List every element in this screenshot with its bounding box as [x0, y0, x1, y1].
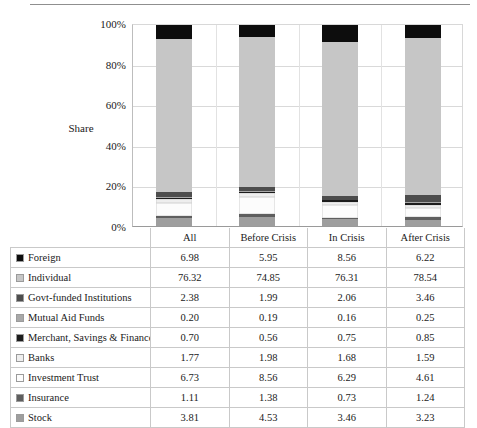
table-cell-value: 4.53: [229, 408, 308, 428]
table-cell-value: 76.31: [308, 268, 387, 288]
segment-foreign: [322, 25, 358, 42]
table-cell-value: 0.73: [308, 388, 387, 408]
table-cell-value: 74.85: [229, 268, 308, 288]
table-row: Insurance1.111.380.731.24: [11, 388, 465, 408]
legend-label: Insurance: [28, 392, 69, 403]
data-table: AllBefore CrisisIn CrisisAfter Crisis Fo…: [10, 228, 465, 428]
table-cell-value: 2.38: [151, 288, 230, 308]
legend-swatch-icon: [16, 374, 24, 382]
legend-label: Govt-funded Institutions: [28, 292, 132, 303]
table-row: Banks1.771.981.681.59: [11, 348, 465, 368]
segment-foreign: [405, 25, 441, 38]
y-axis-tick-100: 100%: [84, 19, 126, 30]
y-axis-title: Share: [52, 122, 110, 134]
table-row: Merchant, Savings & Finance0.700.560.750…: [11, 328, 465, 348]
table-cell-value: 6.73: [151, 368, 230, 388]
legend-label: Individual: [28, 272, 71, 283]
segment-foreign: [239, 25, 275, 37]
legend-swatch-icon: [16, 354, 24, 362]
table-cell-value: 0.20: [151, 308, 230, 328]
segment-investment-trust: [322, 205, 358, 218]
top-divider: [30, 4, 470, 5]
segment-stock: [405, 220, 441, 227]
legend-swatch-icon: [16, 314, 24, 322]
table-row: Govt-funded Institutions2.381.992.063.46: [11, 288, 465, 308]
table-cell-value: 6.98: [151, 248, 230, 268]
table-header-corner: [11, 228, 151, 248]
legend-swatch-icon: [16, 274, 24, 282]
table-cell-value: 0.16: [308, 308, 387, 328]
table-cell-value: 1.59: [386, 348, 465, 368]
table-row: Individual76.3274.8576.3178.54: [11, 268, 465, 288]
table-column-header-in-crisis: In Crisis: [308, 228, 387, 248]
table-cell-value: 5.95: [229, 248, 308, 268]
legend-entry: Foreign: [11, 248, 151, 268]
table-cell-value: 1.24: [386, 388, 465, 408]
bar-before-crisis: [239, 25, 275, 226]
legend-label: Investment Trust: [28, 372, 99, 383]
bar-in-crisis: [322, 25, 358, 226]
legend-entry: Insurance: [11, 388, 151, 408]
table-cell-value: 6.29: [308, 368, 387, 388]
table-cell-value: 0.85: [386, 328, 465, 348]
table-row: Mutual Aid Funds0.200.190.160.25: [11, 308, 465, 328]
table-column-header-all: All: [151, 228, 230, 248]
table-cell-value: 0.75: [308, 328, 387, 348]
legend-swatch-icon: [16, 254, 24, 262]
table-header: AllBefore CrisisIn CrisisAfter Crisis: [11, 228, 465, 248]
table-cell-value: 2.06: [308, 288, 387, 308]
table-cell-value: 6.22: [386, 248, 465, 268]
legend-entry: Merchant, Savings & Finance: [11, 328, 151, 348]
segment-individual: [239, 37, 275, 187]
category-divider: [216, 25, 217, 226]
segment-investment-trust: [239, 197, 275, 214]
table-cell-value: 8.56: [229, 368, 308, 388]
table-cell-value: 1.68: [308, 348, 387, 368]
table-cell-value: 0.70: [151, 328, 230, 348]
segment-individual: [322, 42, 358, 195]
legend-label: Foreign: [28, 252, 61, 263]
category-divider: [381, 25, 382, 226]
legend-swatch-icon: [16, 334, 24, 342]
legend-label: Stock: [28, 412, 52, 423]
segment-individual: [405, 38, 441, 196]
segment-individual: [156, 39, 192, 192]
legend-label: Merchant, Savings & Finance: [28, 332, 151, 343]
table-cell-value: 3.46: [308, 408, 387, 428]
table-cell-value: 0.25: [386, 308, 465, 328]
legend-label: Banks: [28, 352, 54, 363]
legend-entry: Investment Trust: [11, 368, 151, 388]
table-cell-value: 1.77: [151, 348, 230, 368]
table-cell-value: 76.32: [151, 268, 230, 288]
legend-label: Mutual Aid Funds: [28, 312, 104, 323]
segment-investment-trust: [405, 208, 441, 217]
table-column-header-after-crisis: After Crisis: [386, 228, 465, 248]
table-row: Foreign6.985.958.566.22: [11, 248, 465, 268]
segment-govt-funded-institutions: [405, 195, 441, 202]
y-axis-tick-60: 60%: [84, 100, 126, 111]
table-cell-value: 78.54: [386, 268, 465, 288]
table-cell-value: 1.38: [229, 388, 308, 408]
legend-entry: Mutual Aid Funds: [11, 308, 151, 328]
bar-after-crisis: [405, 25, 441, 226]
segment-stock: [322, 219, 358, 226]
bar-all: [156, 25, 192, 226]
segment-investment-trust: [156, 203, 192, 217]
table-cell-value: 1.98: [229, 348, 308, 368]
plot-area: [132, 24, 463, 227]
table-cell-value: 0.56: [229, 328, 308, 348]
table-cell-value: 8.56: [308, 248, 387, 268]
table-header-row: AllBefore CrisisIn CrisisAfter Crisis: [11, 228, 465, 248]
legend-swatch-icon: [16, 294, 24, 302]
y-axis-tick-20: 20%: [84, 181, 126, 192]
segment-stock: [239, 217, 275, 226]
segment-foreign: [156, 25, 192, 39]
table-cell-value: 1.99: [229, 288, 308, 308]
y-axis-tick-80: 80%: [84, 60, 126, 71]
table-cell-value: 3.46: [386, 288, 465, 308]
legend-swatch-icon: [16, 414, 24, 422]
table-row: Investment Trust6.738.566.294.61: [11, 368, 465, 388]
table-row: Stock3.814.533.463.23: [11, 408, 465, 428]
table-cell-value: 3.81: [151, 408, 230, 428]
